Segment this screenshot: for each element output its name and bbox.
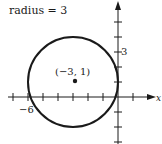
- circle-diagram: radius = 3 (−3, 1) −6 3 x: [0, 0, 162, 144]
- y-tick-label: 3: [121, 46, 127, 57]
- x-tick-label: −6: [19, 104, 34, 115]
- caption: radius = 3: [9, 4, 67, 17]
- y-axis-arrow-icon: [115, 1, 121, 10]
- circle: [28, 37, 118, 127]
- x-axis-label: x: [156, 93, 161, 103]
- center-point: [73, 79, 77, 83]
- center-label: (−3, 1): [55, 66, 90, 77]
- x-axis-arrow-icon: [147, 94, 156, 100]
